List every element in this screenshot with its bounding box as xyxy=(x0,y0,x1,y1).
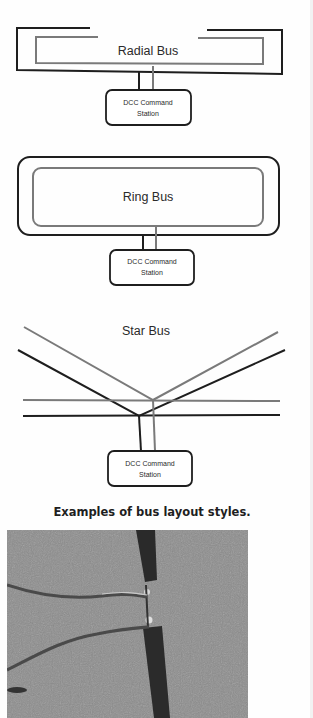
star-station-label-2: Station xyxy=(139,471,161,478)
star-bus-title: Star Bus xyxy=(122,324,170,338)
ring-bus-diagram: Ring Bus DCC Command Station xyxy=(18,157,279,285)
radial-command-station-box xyxy=(106,90,191,125)
ring-command-station-box xyxy=(110,250,194,285)
radial-bus-title: Radial Bus xyxy=(118,44,178,58)
photo-content xyxy=(7,530,248,718)
radial-bus-diagram: Radial Bus DCC Command Station xyxy=(17,28,282,125)
ring-bus-title: Ring Bus xyxy=(123,190,174,204)
bus-diagrams: Radial Bus DCC Command Station Ring Bus … xyxy=(0,0,313,500)
ring-station-label-2: Station xyxy=(141,269,163,276)
ring-station-label: DCC Command xyxy=(127,258,177,265)
radial-station-label-2: Station xyxy=(137,110,159,117)
star-station-label: DCC Command xyxy=(125,460,175,467)
radial-station-label: DCC Command xyxy=(123,99,173,106)
wire-photo xyxy=(7,530,248,718)
star-bus-diagram: Star Bus DCC Command Station xyxy=(18,324,285,486)
figure-caption: Examples of bus layout styles. xyxy=(0,505,300,519)
star-command-station-box xyxy=(108,451,192,486)
